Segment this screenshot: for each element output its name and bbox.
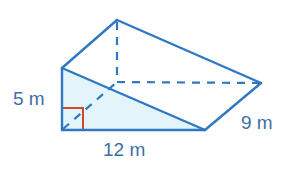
hidden-edge-back-base — [117, 82, 259, 83]
edge-back-hypotenuse — [117, 20, 261, 83]
base-label: 12 m — [103, 140, 145, 159]
prism-diagram: 5 m 12 m 9 m — [0, 0, 294, 176]
edge-top-depth — [62, 20, 117, 68]
height-label: 5 m — [13, 89, 45, 108]
length-label: 9 m — [241, 113, 273, 132]
